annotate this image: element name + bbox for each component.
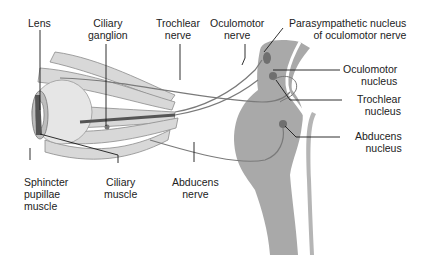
label-ciliary-ganglion: Ciliary ganglion [88, 17, 128, 41]
brainstem [234, 40, 316, 255]
label-oculomotor-nerve: Oculomotor nerve [210, 17, 264, 41]
label-ciliary-muscle: Ciliary muscle [104, 176, 137, 200]
label-abducens-nucleus: Abducens nucleus [355, 130, 402, 154]
label-parasympathetic-nucleus: Parasympathetic nucleus of oculomotor ne… [289, 17, 406, 41]
parasympathetic-nucleus-shape [263, 52, 271, 64]
label-trochlear-nerve: Trochlear nerve [156, 17, 200, 41]
label-lens: Lens [28, 17, 51, 29]
diagram-canvas: Lens Ciliary ganglion Trochlear nerve Oc… [0, 0, 428, 260]
label-oculomotor-nucleus: Oculomotor nucleus [343, 63, 397, 87]
label-trochlear-nucleus: Trochlear nucleus [357, 93, 401, 117]
label-abducens-nerve: Abducens nerve [172, 176, 219, 200]
label-sphincter-pupillae: Sphincter pupillae muscle [24, 176, 68, 212]
